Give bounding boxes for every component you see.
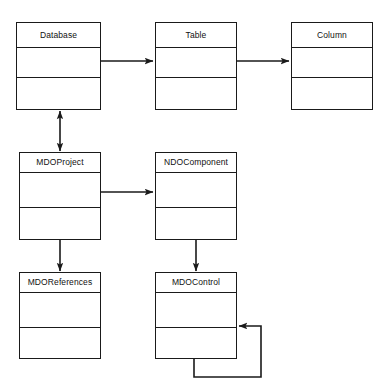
class-box-column[interactable]: Column [291, 22, 373, 110]
class-name-compartment-mdoreferences: MDOReferences [20, 273, 100, 293]
class-operations-compartment-ndocomponent [156, 208, 236, 239]
class-attributes-compartment-column [292, 48, 372, 78]
class-operations-compartment-table [156, 78, 236, 109]
class-operations-compartment-mdoreferences [20, 328, 100, 358]
class-name-compartment-column: Column [292, 23, 372, 48]
class-box-table[interactable]: Table [155, 22, 237, 110]
class-operations-compartment-column [292, 78, 372, 109]
class-attributes-compartment-ndocomponent [156, 173, 236, 208]
class-name-compartment-database: Database [17, 23, 100, 48]
class-name-compartment-mdocontrol: MDOControl [156, 273, 236, 293]
class-diagram-canvas: Database Table Column MDOProject NDOComp… [0, 0, 386, 391]
class-attributes-compartment-mdocontrol [156, 293, 236, 328]
class-box-mdoreferences[interactable]: MDOReferences [19, 272, 101, 359]
class-box-database[interactable]: Database [16, 22, 101, 110]
class-box-mdocontrol[interactable]: MDOControl [155, 272, 237, 359]
class-label-mdoreferences: MDOReferences [28, 278, 93, 287]
class-attributes-compartment-table [156, 48, 236, 78]
class-attributes-compartment-mdoproject [20, 173, 100, 208]
class-label-mdocontrol: MDOControl [172, 278, 220, 287]
class-label-mdoproject: MDOProject [36, 158, 83, 167]
class-operations-compartment-database [17, 78, 100, 109]
class-label-column: Column [317, 31, 347, 40]
class-label-table: Table [186, 31, 207, 40]
class-attributes-compartment-database [17, 48, 100, 78]
class-label-ndocomponent: NDOComponent [164, 158, 228, 167]
class-attributes-compartment-mdoreferences [20, 293, 100, 328]
class-box-ndocomponent[interactable]: NDOComponent [155, 152, 237, 240]
class-name-compartment-ndocomponent: NDOComponent [156, 153, 236, 173]
class-name-compartment-table: Table [156, 23, 236, 48]
class-operations-compartment-mdocontrol [156, 328, 236, 358]
class-name-compartment-mdoproject: MDOProject [20, 153, 100, 173]
class-label-database: Database [40, 31, 77, 40]
class-box-mdoproject[interactable]: MDOProject [19, 152, 101, 240]
class-operations-compartment-mdoproject [20, 208, 100, 239]
